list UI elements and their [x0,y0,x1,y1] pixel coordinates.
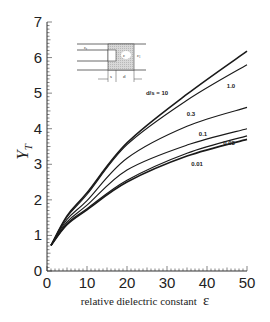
curve-label: d/s = 10 [146,90,169,96]
curve-label: 0.1 [199,131,208,137]
inset-diagram: εr ε ε1 s d [77,44,146,82]
y-tick-label: 1 [34,226,42,243]
curve-label: 0.3 [187,111,196,117]
series-line-d-s-10 [51,51,247,245]
y-tick-label: 4 [34,120,42,137]
inset-label-eps: ε [123,53,125,58]
y-tick-label: 3 [34,155,42,172]
x-tick-label: 0 [43,274,51,291]
y-axis-title: YT [13,143,34,159]
curve-label: 0.01 [191,161,203,167]
series-line-0-01 [51,139,247,245]
x-tick-label: 10 [79,274,96,291]
y-tick-label: 0 [34,262,42,279]
x-tick-label: 20 [119,274,136,291]
inset-label-s: s [110,74,112,79]
tick-labels: 0102030405001234567 [34,13,256,291]
curves [51,51,247,245]
series-line-0-03 [51,136,247,246]
inset-label-eps1: ε1 [137,53,141,59]
inset-label-d: d [123,74,126,79]
series-line-0-3 [51,107,247,245]
curve-label: 0.03 [223,140,235,146]
x-tick-label: 50 [239,274,256,291]
x-tick-label: 40 [199,274,216,291]
y-tick-label: 5 [34,84,42,101]
x-tick-label: 30 [159,274,176,291]
y-tick-label: 7 [34,13,42,30]
chart: 0102030405001234567 d/s = 101.00.30.10.0… [0,0,270,322]
curve-label: 1.0 [227,83,236,89]
y-tick-label: 6 [34,49,42,66]
y-tick-label: 2 [34,191,42,208]
x-axis-title: relative dielectric constantε [81,292,209,308]
inset-gap [108,50,116,61]
